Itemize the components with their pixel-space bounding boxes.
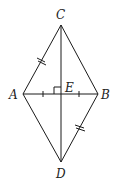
segment-ad xyxy=(23,94,61,162)
label-d: D xyxy=(55,167,66,181)
segment-ca xyxy=(23,25,61,94)
right-angle-mark xyxy=(54,87,61,94)
double-tick-ca xyxy=(37,58,46,65)
label-a: A xyxy=(8,88,18,102)
rhombus-diagram: C A B D E xyxy=(0,0,115,187)
segment-bd xyxy=(61,94,98,162)
label-b: B xyxy=(100,88,110,102)
label-c: C xyxy=(56,8,65,22)
label-e: E xyxy=(64,81,74,95)
